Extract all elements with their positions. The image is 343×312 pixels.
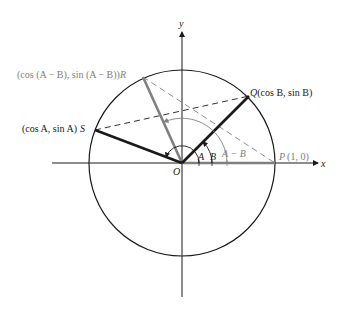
point-R-coords: (cos (A − B), sin (A − B)) xyxy=(17,69,120,81)
angle-B-label: B xyxy=(210,151,216,162)
point-Q-coords: (cos B, sin B) xyxy=(257,87,312,99)
chord-SQ xyxy=(95,96,249,130)
angle-A-minus-B-arc xyxy=(164,118,227,163)
point-S-name: S xyxy=(80,123,85,134)
point-R-name: R xyxy=(119,69,126,80)
point-R-label: (cos (A − B), sin (A − B))R xyxy=(17,69,126,81)
angle-A-arc xyxy=(166,146,199,163)
angle-A-minus-B-label: A − B xyxy=(221,148,246,159)
point-S-label: (cos A, sin A)S xyxy=(22,123,85,135)
point-S-coords: (cos A, sin A) xyxy=(22,123,77,135)
x-axis-label: x xyxy=(320,158,326,169)
point-P-name: P xyxy=(278,151,285,162)
y-axis-label: y xyxy=(178,18,184,29)
point-Q-label: Q(cos B, sin B) xyxy=(250,87,312,99)
unit-circle-diagram: y x O A B A − B (cos (A − B), sin (A − B… xyxy=(0,0,343,312)
origin-label: O xyxy=(173,166,180,177)
angle-A-label: A xyxy=(197,151,205,162)
point-P-label: P(1, 0) xyxy=(278,151,309,163)
point-P-coords: (1, 0) xyxy=(287,151,309,163)
